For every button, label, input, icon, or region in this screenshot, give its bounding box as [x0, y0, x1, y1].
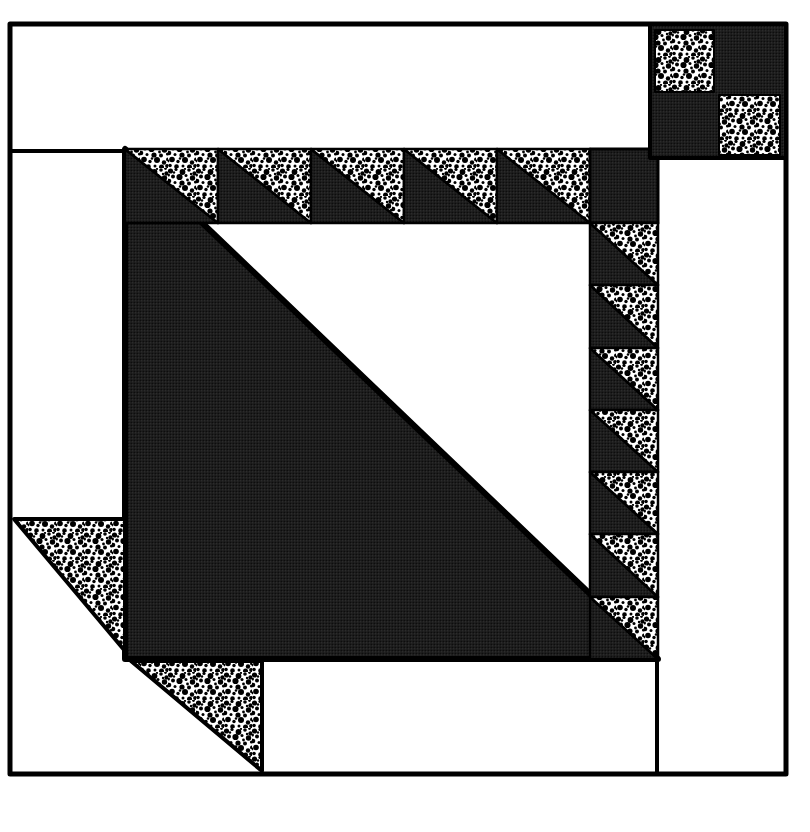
- sawtooth-corner-square-dark: [590, 149, 658, 223]
- quilt-block-figure: [0, 0, 810, 832]
- four-patch-stipple-square-bottom-right: [719, 95, 780, 155]
- four-patch-stipple-square-top-left: [655, 30, 714, 92]
- quilt-block-svg: [0, 0, 810, 832]
